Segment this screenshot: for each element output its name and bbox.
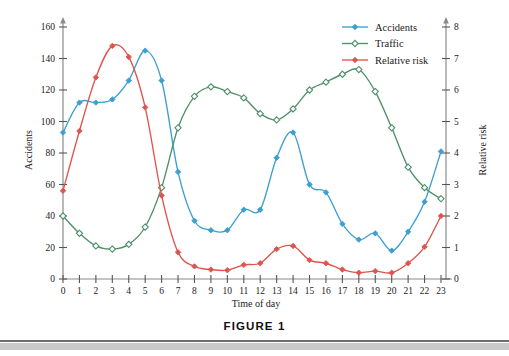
legend-marker [352,57,357,62]
data-point-marker [93,100,98,105]
x-tick-label: 2 [93,286,98,296]
data-point-marker [274,117,280,123]
legend-marker [352,40,358,46]
left-tick-label: 80 [46,148,56,158]
x-tick-label: 4 [126,286,131,296]
data-point-marker [339,71,345,77]
data-point-marker [389,270,394,275]
legend-item-accidents[interactable]: Accidents [342,22,417,33]
data-point-marker [356,270,361,275]
x-axis-ticks: 01234567891011121314151617181920212223 [61,275,446,296]
data-point-marker [175,125,181,131]
x-tick-label: 8 [192,286,197,296]
figure-container: 020406080100120140160 012345678 01234567… [0,0,509,356]
data-point-marker [389,125,395,131]
data-point-marker [175,169,180,174]
data-point-marker [438,196,444,202]
right-tick-label: 5 [454,117,459,127]
right-tick-label: 7 [454,54,459,64]
right-tick-label: 6 [454,85,459,95]
chart-legend: AccidentsTrafficRelative risk [342,22,429,66]
x-tick-label: 20 [387,286,397,296]
data-point-marker [290,243,295,248]
legend-label: Relative risk [375,55,429,66]
y-axis-title: Accidents [23,130,34,170]
x-tick-label: 7 [176,286,181,296]
data-point-marker [340,267,345,272]
left-tick-label: 100 [41,117,56,127]
x-tick-label: 6 [159,286,164,296]
right-tick-label: 4 [454,148,459,158]
right-tick-label: 8 [454,22,459,32]
page-bottom-band [0,340,509,356]
data-point-marker [60,130,65,135]
legend-item-relative-risk[interactable]: Relative risk [342,55,429,66]
data-point-marker [142,105,147,110]
series-line [63,51,441,251]
data-point-marker [224,88,230,94]
bottom-rule-dark [0,340,509,342]
data-point-marker [373,268,378,273]
data-point-marker [159,78,164,83]
right-tick-label: 1 [454,243,459,253]
data-point-marker [372,88,378,94]
data-point-marker [142,224,148,230]
x-tick-label: 23 [436,286,446,296]
data-point-marker [438,213,443,218]
x-tick-label: 14 [288,286,298,296]
x-tick-label: 18 [354,286,364,296]
figure-caption: FIGURE 1 [224,320,286,332]
data-point-marker [93,243,99,249]
chart-plot-area: 020406080100120140160 012345678 01234567… [0,0,509,318]
data-point-marker [422,199,427,204]
right-tick-label: 0 [454,274,459,284]
data-point-marker [77,128,82,133]
data-point-marker [109,246,115,252]
data-point-marker [405,164,411,170]
x-tick-label: 16 [321,286,331,296]
data-series-layer [60,43,444,275]
right-axis-ticks: 012345678 [442,22,459,284]
legend-item-traffic[interactable]: Traffic [342,38,404,49]
x-tick-label: 19 [371,286,381,296]
data-point-marker [93,75,98,80]
data-point-marker [389,248,394,253]
legend-label: Traffic [375,38,404,49]
data-point-marker [241,262,246,267]
series-line [63,69,441,249]
x-tick-label: 9 [209,286,214,296]
legend-label: Accidents [375,22,417,33]
series-line [63,45,441,273]
x-tick-label: 13 [272,286,282,296]
data-point-marker [323,79,329,85]
x-tick-label: 21 [403,286,413,296]
left-tick-label: 140 [41,54,56,64]
series-relative-risk [60,43,443,275]
data-point-marker [323,261,328,266]
x-tick-label: 15 [305,286,315,296]
right-tick-label: 2 [454,211,459,221]
left-tick-label: 40 [46,211,56,221]
data-point-marker [274,155,279,160]
data-point-marker [356,237,361,242]
data-point-marker [192,264,197,269]
data-point-marker [225,267,230,272]
x-tick-label: 5 [143,286,148,296]
chart-svg: 020406080100120140160 012345678 01234567… [0,0,509,318]
left-tick-label: 160 [41,22,56,32]
data-point-marker [126,54,131,59]
x-tick-label: 17 [338,286,348,296]
x-tick-label: 12 [255,286,265,296]
data-point-marker [208,267,213,272]
y2-axis-title: Relative risk [477,125,488,176]
data-point-marker [60,188,65,193]
x-tick-label: 11 [239,286,248,296]
left-tick-label: 0 [50,274,55,284]
data-point-marker [175,250,180,255]
x-tick-label: 3 [110,286,115,296]
left-tick-label: 60 [46,180,56,190]
bottom-rule-light [0,343,509,350]
figure-caption-row: FIGURE 1 [0,316,509,340]
series-accidents [60,48,443,253]
x-tick-label: 22 [420,286,430,296]
